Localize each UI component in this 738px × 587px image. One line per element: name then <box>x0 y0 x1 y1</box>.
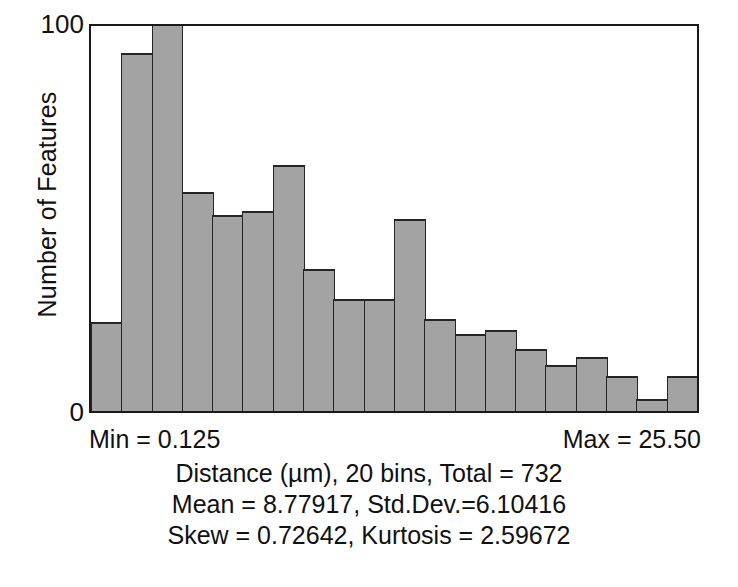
histogram-bar <box>91 322 123 411</box>
histogram-bar <box>485 330 517 411</box>
y-axis-tick-label-100: 100 <box>4 11 84 37</box>
histogram-bar <box>606 376 638 411</box>
histogram-bar <box>636 399 668 411</box>
histogram-bars <box>91 26 697 411</box>
histogram-bar <box>515 349 547 411</box>
histogram-bar <box>273 165 305 411</box>
range-label-row: Min = 0.125 Max = 25.50 <box>89 424 701 454</box>
histogram-bar <box>121 53 153 411</box>
histogram-bar <box>394 219 426 412</box>
histogram-bar <box>182 192 214 411</box>
histogram-bar <box>424 319 456 411</box>
histogram-bar <box>212 215 244 411</box>
histogram-bar <box>545 365 577 411</box>
max-label: Max = 25.50 <box>563 424 701 454</box>
histogram-bar <box>667 376 699 411</box>
histogram-figure: Number of Features 100 0 Min = 0.125 Max… <box>0 0 738 587</box>
histogram-bar <box>303 269 335 411</box>
caption-line-distance: Distance (µm), 20 bins, Total = 732 <box>0 458 738 489</box>
histogram-bar <box>242 211 274 411</box>
caption-line-skew-kurtosis: Skew = 0.72642, Kurtosis = 2.59672 <box>0 520 738 551</box>
histogram-bar <box>333 299 365 411</box>
histogram-bar <box>152 24 184 411</box>
caption-block: Distance (µm), 20 bins, Total = 732 Mean… <box>0 458 738 551</box>
y-axis-title: Number of Features <box>33 40 62 370</box>
plot-area <box>89 24 699 413</box>
min-label: Min = 0.125 <box>89 424 220 454</box>
histogram-bar <box>455 334 487 411</box>
caption-line-mean-stddev: Mean = 8.77917, Std.Dev.=6.10416 <box>0 489 738 520</box>
histogram-bar <box>364 299 396 411</box>
histogram-bar <box>576 357 608 411</box>
y-axis-tick-label-0: 0 <box>4 399 84 425</box>
